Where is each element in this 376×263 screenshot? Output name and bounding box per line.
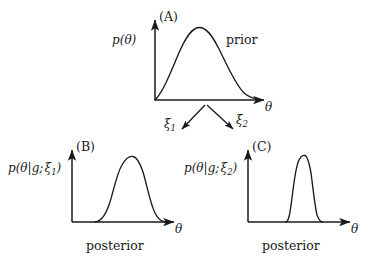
panel-b-y-axis-label: p(θ|g; ξ1) [8, 161, 62, 177]
panel-a-x-axis-label: θ [265, 100, 273, 114]
panel-b-x-axis-label: θ [175, 222, 183, 236]
panel-c-posterior-curve [286, 155, 322, 222]
diagram-canvas: (A) p(θ) θ prior ξ1 ξ2 (B) p(θ|g; ξ1) θ … [0, 0, 376, 263]
figure-root: (A) p(θ) θ prior ξ1 ξ2 (B) p(θ|g; ξ1) θ … [0, 0, 376, 263]
branch-label-xi1: ξ1 [164, 117, 176, 133]
panel-a-prior: (A) p(θ) θ prior [112, 9, 273, 114]
branch-label-xi2: ξ2 [236, 113, 248, 129]
panel-a-tag: (A) [159, 9, 178, 24]
panel-c-y-axis-label: p(θ|g; ξ2) [184, 161, 238, 177]
panel-c-caption-posterior: posterior [262, 238, 320, 253]
panel-c-x-axis-label: θ [351, 222, 359, 236]
panel-b-caption-posterior: posterior [86, 238, 144, 253]
panel-b-posterior: (B) p(θ|g; ξ1) θ posterior [8, 139, 183, 253]
branch-arrow-xi2 [207, 105, 233, 129]
panel-c-tag: (C) [252, 139, 271, 154]
panel-a-caption-prior: prior [226, 32, 258, 47]
panel-b-posterior-curve [95, 156, 165, 222]
panel-a-y-axis-label: p(θ) [112, 33, 137, 47]
panel-b-tag: (B) [76, 139, 95, 154]
panel-c-posterior: (C) p(θ|g; ξ2) θ posterior [184, 139, 359, 253]
branch-arrows-group: ξ1 ξ2 [164, 105, 248, 133]
branch-arrow-xi1 [182, 105, 205, 129]
